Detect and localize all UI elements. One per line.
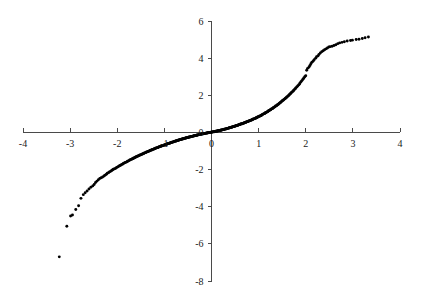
data-point — [351, 39, 354, 42]
y-tick-label-6: 6 — [199, 16, 204, 27]
x-tick-label-3: 3 — [350, 138, 355, 149]
data-point — [77, 204, 80, 207]
qq-plot-figure: -4-3-2-101234 -8-6-4-20246 — [0, 0, 424, 301]
data-point — [367, 36, 370, 39]
data-point — [355, 38, 358, 41]
x-tick-label--2: -2 — [113, 138, 121, 149]
data-point — [80, 197, 83, 200]
x-tick-label--3: -3 — [66, 138, 74, 149]
data-point — [58, 255, 61, 258]
y-tick-label-4: 4 — [199, 53, 204, 64]
x-tick-label-1: 1 — [256, 138, 261, 149]
data-point — [346, 40, 349, 43]
x-tick-label--1: -1 — [160, 138, 168, 149]
data-point — [71, 214, 74, 217]
scatter-plot-canvas: -4-3-2-101234 -8-6-4-20246 — [0, 0, 424, 301]
y-tick-label-2: 2 — [199, 90, 204, 101]
x-tick-label-4: 4 — [398, 138, 403, 149]
data-point — [361, 37, 364, 40]
y-tick-label--4: -4 — [195, 201, 203, 212]
data-point — [343, 40, 346, 43]
y-axis-tick-labels: -8-6-4-20246 — [195, 16, 203, 287]
y-tick-label--2: -2 — [195, 164, 203, 175]
data-point — [304, 74, 307, 77]
x-tick-label-2: 2 — [303, 138, 308, 149]
x-tick-label--4: -4 — [19, 138, 27, 149]
x-tick-label-0: 0 — [209, 138, 214, 149]
data-point — [74, 208, 77, 211]
y-tick-label-0: 0 — [199, 127, 204, 138]
data-point — [364, 36, 367, 39]
y-tick-label--8: -8 — [195, 276, 203, 287]
data-point — [358, 38, 361, 41]
x-axis-tick-labels: -4-3-2-101234 — [19, 138, 403, 149]
y-tick-label--6: -6 — [195, 238, 203, 249]
data-point — [65, 225, 68, 228]
y-axis — [208, 21, 212, 281]
